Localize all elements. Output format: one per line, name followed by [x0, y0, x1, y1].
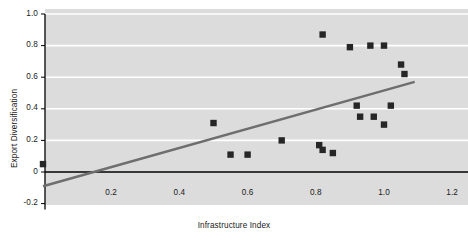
plot-background: [45, 9, 468, 205]
data-point: [371, 114, 377, 120]
chart-canvas: [0, 0, 468, 240]
data-point: [381, 121, 387, 127]
x-tick-label: 0.8: [299, 188, 333, 197]
data-point: [279, 137, 285, 143]
data-point: [401, 71, 407, 77]
data-point: [210, 120, 216, 126]
data-point: [330, 150, 336, 156]
scatter-chart: Export Diversification Infrastructure In…: [0, 0, 468, 240]
data-point: [244, 151, 250, 157]
x-tick-label: 1.2: [435, 188, 468, 197]
data-point: [40, 161, 46, 167]
x-tick-label: 0.6: [231, 188, 265, 197]
data-point: [319, 147, 325, 153]
x-axis-label: Infrastructure Index: [0, 221, 468, 230]
x-tick-label: 0.2: [94, 188, 128, 197]
data-point: [381, 42, 387, 48]
x-tick-label: 1.0: [367, 188, 401, 197]
data-point: [367, 42, 373, 48]
y-tick-label: 0.4: [12, 103, 38, 112]
y-tick-label: 0.2: [12, 135, 38, 144]
data-point: [354, 102, 360, 108]
y-axis-label-wrap: Export Diversification: [10, 168, 11, 169]
y-tick-label: 1.0: [12, 9, 38, 18]
x-tick-label: 0.4: [162, 188, 196, 197]
data-point: [388, 102, 394, 108]
data-point: [398, 61, 404, 67]
data-point: [227, 151, 233, 157]
y-tick-label: -0.2: [12, 198, 38, 207]
y-tick-label: 0.6: [12, 72, 38, 81]
y-tick-label: 0.8: [12, 40, 38, 49]
data-point: [357, 114, 363, 120]
y-tick-label: 0: [12, 167, 38, 176]
data-point: [347, 44, 353, 50]
data-point: [319, 31, 325, 37]
